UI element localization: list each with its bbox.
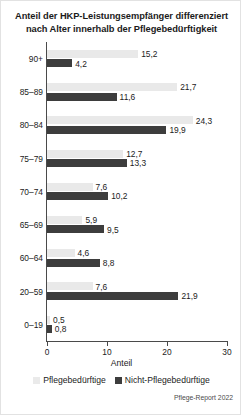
y-axis-tick-label: 85–89 bbox=[1, 87, 43, 97]
bar-value-label: 0,8 bbox=[55, 325, 67, 333]
x-axis-line bbox=[46, 341, 228, 342]
bar-nicht-pflegebeduerftige bbox=[47, 93, 117, 101]
legend-swatch-icon bbox=[33, 377, 40, 384]
y-axis-tick-label: 80–84 bbox=[1, 120, 43, 130]
legend-item[interactable]: Pflegebedürftige bbox=[33, 375, 106, 385]
plot-area: 15,24,221,711,624,319,912,713,37,610,25,… bbox=[47, 42, 227, 341]
bar-nicht-pflegebeduerftige bbox=[47, 126, 166, 134]
x-axis-tick bbox=[167, 342, 168, 346]
bar-nicht-pflegebeduerftige bbox=[47, 159, 127, 167]
bar-value-label: 0,5 bbox=[53, 316, 65, 324]
bar-nicht-pflegebeduerftige bbox=[47, 292, 178, 300]
source-note: Pflege-Report 2022 bbox=[174, 394, 233, 401]
bar-value-label: 7,6 bbox=[96, 283, 108, 291]
bar-pflegebeduerftige bbox=[47, 150, 123, 158]
y-axis-tick-label: 65–69 bbox=[1, 220, 43, 230]
bar-value-label: 4,2 bbox=[75, 60, 87, 68]
legend-label: Nicht-Pflegebedürftige bbox=[125, 375, 210, 385]
x-axis-tick-label: 0 bbox=[45, 347, 50, 357]
bar-nicht-pflegebeduerftige bbox=[47, 59, 72, 67]
bar-value-label: 7,6 bbox=[96, 183, 108, 191]
x-axis-tick bbox=[227, 342, 228, 346]
bar-value-label: 12,7 bbox=[126, 150, 142, 158]
bar-value-label: 4,6 bbox=[78, 249, 90, 257]
x-axis-label: Anteil bbox=[1, 358, 241, 368]
bar-value-label: 9,5 bbox=[107, 226, 119, 234]
bar-pflegebeduerftige bbox=[47, 249, 75, 257]
bar-value-label: 21,7 bbox=[180, 83, 196, 91]
bar-value-label: 5,9 bbox=[85, 216, 97, 224]
bar-pflegebeduerftige bbox=[47, 50, 138, 58]
chart-legend: PflegebedürftigeNicht-Pflegebedürftige bbox=[1, 375, 241, 385]
bar-value-label: 24,3 bbox=[196, 117, 212, 125]
bar-nicht-pflegebeduerftige bbox=[47, 225, 104, 233]
bar-pflegebeduerftige bbox=[47, 316, 50, 324]
y-axis-category-labels: 90+85–8980–8475–7970–7465–6960–6420–590–… bbox=[1, 42, 43, 341]
y-axis-tick-label: 60–64 bbox=[1, 253, 43, 263]
bar-value-label: 13,3 bbox=[130, 159, 146, 167]
bar-pflegebeduerftige bbox=[47, 216, 82, 224]
x-axis-tick bbox=[107, 342, 108, 346]
y-axis-tick-label: 20–59 bbox=[1, 287, 43, 297]
chart-title-line-1: Anteil der HKP-Leistungsempfänger differ… bbox=[7, 10, 236, 23]
legend-item[interactable]: Nicht-Pflegebedürftige bbox=[115, 375, 210, 385]
bar-nicht-pflegebeduerftige bbox=[47, 325, 52, 333]
bar-value-label: 11,6 bbox=[120, 93, 136, 101]
x-axis-tick bbox=[47, 342, 48, 346]
y-axis-tick-label: 0–19 bbox=[1, 320, 43, 330]
x-axis-tick-label: 30 bbox=[222, 347, 231, 357]
bar-value-label: 19,9 bbox=[169, 126, 185, 134]
bar-value-label: 21,9 bbox=[181, 292, 197, 300]
bar-value-label: 8,8 bbox=[103, 259, 115, 267]
bar-nicht-pflegebeduerftige bbox=[47, 259, 100, 267]
x-axis-tick-label: 20 bbox=[162, 347, 171, 357]
chart-card: Anteil der HKP-Leistungsempfänger differ… bbox=[0, 0, 241, 415]
y-axis-tick-label: 90+ bbox=[1, 54, 43, 64]
bar-nicht-pflegebeduerftige bbox=[47, 192, 108, 200]
bar-pflegebeduerftige bbox=[47, 83, 177, 91]
legend-swatch-icon bbox=[115, 377, 122, 384]
chart-title: Anteil der HKP-Leistungsempfänger differ… bbox=[7, 10, 236, 36]
bar-value-label: 15,2 bbox=[141, 50, 157, 58]
legend-label: Pflegebedürftige bbox=[43, 375, 106, 385]
bar-value-label: 10,2 bbox=[111, 192, 127, 200]
y-axis-tick-label: 70–74 bbox=[1, 187, 43, 197]
bar-pflegebeduerftige bbox=[47, 116, 193, 124]
x-axis-tick-label: 10 bbox=[102, 347, 111, 357]
chart-title-line-2: nach Alter innerhalb der Pflegebedürftig… bbox=[7, 23, 236, 36]
bar-pflegebeduerftige bbox=[47, 183, 93, 191]
bar-pflegebeduerftige bbox=[47, 282, 93, 290]
y-axis-tick-label: 75–79 bbox=[1, 154, 43, 164]
